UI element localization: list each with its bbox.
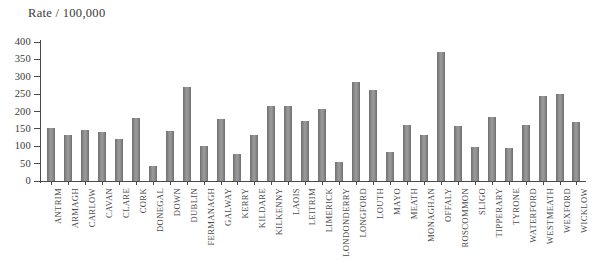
y-tick-label: 300 bbox=[1, 72, 31, 82]
x-tick-mark bbox=[153, 181, 154, 185]
x-axis-label: CAVAN bbox=[105, 188, 114, 218]
bar bbox=[403, 125, 411, 181]
x-axis-label: MONAGHAN bbox=[427, 188, 436, 242]
x-tick-mark bbox=[509, 181, 510, 185]
x-tick-mark bbox=[475, 181, 476, 185]
bar bbox=[200, 146, 208, 181]
x-tick-mark bbox=[356, 181, 357, 185]
x-axis-label: LIMERICK bbox=[325, 188, 334, 232]
x-tick-mark bbox=[119, 181, 120, 185]
y-tick-mark bbox=[34, 163, 40, 164]
y-tick-label: 0 bbox=[1, 176, 31, 186]
x-tick-mark bbox=[102, 181, 103, 185]
x-axis-label: ARMAGH bbox=[71, 188, 80, 228]
x-tick-mark bbox=[170, 181, 171, 185]
bar-chart: Rate / 100,000 050100150200250300350400 … bbox=[0, 0, 594, 275]
x-axis-label: WICKLOW bbox=[580, 188, 589, 233]
x-tick-mark bbox=[322, 181, 323, 185]
x-tick-mark bbox=[424, 181, 425, 185]
x-axis-label: MEATH bbox=[410, 188, 419, 219]
x-axis-label: WEXFORD bbox=[563, 188, 572, 233]
bar bbox=[81, 130, 89, 181]
bar bbox=[572, 122, 580, 181]
bar bbox=[284, 106, 292, 181]
x-tick-mark bbox=[68, 181, 69, 185]
bar bbox=[217, 119, 225, 181]
x-tick-mark bbox=[526, 181, 527, 185]
y-tick-label: 250 bbox=[1, 89, 31, 99]
x-axis-label: CORK bbox=[139, 188, 148, 213]
x-axis-label: FERMANAGH bbox=[207, 188, 216, 246]
bar bbox=[115, 139, 123, 181]
bar bbox=[301, 121, 309, 181]
x-tick-mark bbox=[390, 181, 391, 185]
x-tick-mark bbox=[458, 181, 459, 185]
x-axis-label: LONGFORD bbox=[359, 188, 368, 238]
x-tick-mark bbox=[492, 181, 493, 185]
bar bbox=[267, 106, 275, 181]
x-axis-label: KERRY bbox=[241, 188, 250, 218]
plot-area bbox=[40, 42, 586, 181]
x-tick-mark bbox=[51, 181, 52, 185]
bar bbox=[488, 117, 496, 181]
x-axis-label: ROSCOMMON bbox=[461, 188, 470, 248]
x-axis-label: TIPPERARY bbox=[495, 188, 504, 237]
x-axis-label: LAOIS bbox=[292, 188, 301, 215]
bar bbox=[250, 135, 258, 181]
x-tick-mark bbox=[441, 181, 442, 185]
bar bbox=[420, 135, 428, 181]
x-axis-label: KILKENNY bbox=[275, 188, 284, 235]
y-tick-label: 150 bbox=[1, 124, 31, 134]
y-tick-mark bbox=[34, 181, 40, 182]
y-tick-mark bbox=[34, 146, 40, 147]
y-tick-mark bbox=[34, 111, 40, 112]
bar bbox=[471, 147, 479, 181]
bar bbox=[505, 148, 513, 181]
x-tick-mark bbox=[187, 181, 188, 185]
x-tick-mark bbox=[271, 181, 272, 185]
x-tick-mark bbox=[543, 181, 544, 185]
x-axis-label: ANTRIM bbox=[54, 188, 63, 224]
y-tick-label: 100 bbox=[1, 141, 31, 151]
x-axis-label: TYRONE bbox=[512, 188, 521, 225]
y-tick-label: 200 bbox=[1, 107, 31, 117]
bar bbox=[98, 132, 106, 181]
x-axis-label: WATERFORD bbox=[529, 188, 538, 243]
x-axis-label: SLIGO bbox=[478, 188, 487, 215]
x-axis-label: LONDONDERRY bbox=[342, 188, 351, 257]
x-axis-label: WESTMEATH bbox=[546, 188, 555, 244]
x-axis-label: OFFALY bbox=[444, 188, 453, 222]
bar bbox=[64, 135, 72, 181]
x-axis-label: GALWAY bbox=[224, 188, 233, 226]
x-tick-mark bbox=[339, 181, 340, 185]
x-tick-mark bbox=[560, 181, 561, 185]
bar bbox=[386, 152, 394, 181]
x-tick-mark bbox=[237, 181, 238, 185]
bar bbox=[318, 109, 326, 181]
x-tick-mark bbox=[288, 181, 289, 185]
y-tick-label: 350 bbox=[1, 54, 31, 64]
x-axis-label: DUBLIN bbox=[190, 188, 199, 223]
x-tick-mark bbox=[136, 181, 137, 185]
y-tick-mark bbox=[34, 42, 40, 43]
bar bbox=[149, 166, 157, 181]
bar bbox=[352, 82, 360, 181]
x-tick-mark bbox=[305, 181, 306, 185]
x-tick-mark bbox=[221, 181, 222, 185]
bar bbox=[47, 128, 55, 181]
x-tick-mark bbox=[576, 181, 577, 185]
bar bbox=[522, 125, 530, 181]
x-axis-label: MAYO bbox=[393, 188, 402, 215]
bar bbox=[166, 131, 174, 181]
x-tick-mark bbox=[204, 181, 205, 185]
y-tick-mark bbox=[34, 59, 40, 60]
x-axis-label: DOWN bbox=[173, 188, 182, 216]
bar bbox=[556, 94, 564, 181]
bar bbox=[132, 118, 140, 181]
bar bbox=[454, 126, 462, 181]
bar bbox=[369, 90, 377, 181]
y-tick-label: 50 bbox=[1, 159, 31, 169]
y-tick-label: 400 bbox=[1, 37, 31, 47]
x-axis-label: LOUTH bbox=[376, 188, 385, 219]
y-tick-mark bbox=[34, 76, 40, 77]
